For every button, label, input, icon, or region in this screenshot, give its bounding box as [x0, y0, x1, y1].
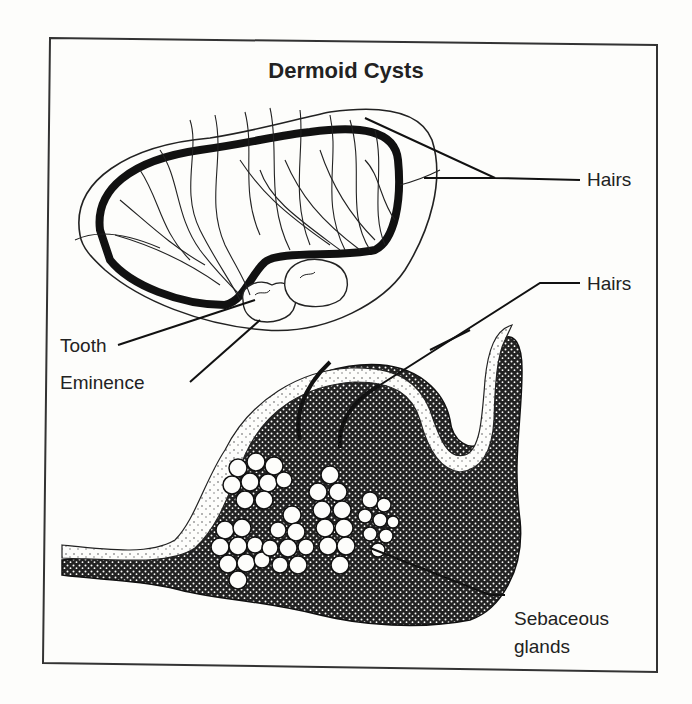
figure-title: Dermoid Cysts: [0, 58, 692, 84]
label-glands: glands: [514, 636, 570, 658]
cyst-illustration: [75, 108, 440, 330]
label-hairs-lower: Hairs: [587, 273, 631, 295]
label-tooth: Tooth: [60, 335, 106, 357]
label-hairs-upper: Hairs: [587, 169, 631, 191]
label-sebaceous: Sebaceous: [514, 608, 609, 630]
label-eminence: Eminence: [60, 372, 145, 394]
